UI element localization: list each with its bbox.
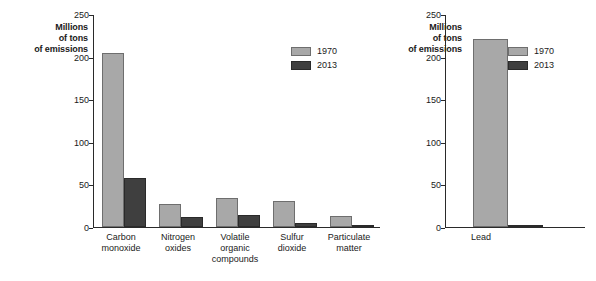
x-axis-line-left	[93, 227, 380, 228]
bar-2013-lead	[508, 225, 543, 227]
bar-1970-volatile-organic-compounds	[216, 198, 238, 227]
bar-1970-particulate-matter	[330, 216, 352, 227]
legend-entry-2013-left[interactable]: 2013	[291, 59, 337, 71]
legend-swatch-2013-icon	[508, 61, 528, 70]
y-axis-title-left: Millions of tons of emissions	[14, 22, 88, 55]
legend-label-2013-right: 2013	[534, 59, 554, 71]
chart-panel-lead: Millions of tons of emissions 250 200 15…	[400, 0, 596, 281]
x-category-label-particulate-matter-line-2: matter	[312, 243, 386, 254]
y-axis-line-right	[445, 15, 446, 228]
bar-2013-sulfur-dioxide	[295, 223, 317, 227]
x-category-label-volatile-organic-compounds-line-3: compounds	[198, 254, 272, 265]
y-tick-label-100-left: 100	[74, 138, 89, 147]
bar-1970-nitrogen-oxides	[159, 204, 181, 227]
y-tick-label-150-left: 150	[74, 96, 89, 105]
x-category-label-particulate-matter-line-1: Particulate	[312, 232, 386, 243]
y-tick-label-100-right: 100	[426, 138, 441, 147]
legend-entry-1970-right[interactable]: 1970	[508, 45, 554, 57]
y-tick-label-150-right: 150	[426, 96, 441, 105]
legend-swatch-2013-icon	[291, 61, 311, 70]
legend-swatch-1970-icon	[508, 47, 528, 56]
legend-entry-1970-left[interactable]: 1970	[291, 45, 337, 57]
x-category-label-lead: Lead	[426, 232, 536, 243]
legend-right: 1970 2013	[508, 45, 554, 73]
legend-label-1970-left: 1970	[317, 45, 337, 57]
y-tick-label-200-right: 200	[426, 53, 441, 62]
bar-2013-volatile-organic-compounds	[238, 215, 260, 227]
y-tick-label-200-left: 200	[74, 53, 89, 62]
x-category-label-particulate-matter: Particulate matter	[312, 232, 386, 254]
bar-2013-nitrogen-oxides	[181, 217, 203, 227]
y-axis-title-line-1: Millions	[14, 22, 88, 33]
legend-swatch-1970-icon	[291, 47, 311, 56]
y-tick-label-50-left: 50	[79, 181, 89, 190]
legend-label-1970-right: 1970	[534, 45, 554, 57]
y-tick-label-50-right: 50	[431, 181, 441, 190]
bar-1970-sulfur-dioxide	[273, 201, 295, 227]
chart-panel-criteria-pollutants: Millions of tons of emissions 250 200 15…	[0, 0, 400, 281]
legend-label-2013-left: 2013	[317, 59, 337, 71]
y-tick-label-250-left: 250	[74, 11, 89, 20]
y-axis-line-left	[93, 15, 94, 228]
y-axis-title-line-2: of tons	[14, 33, 88, 44]
x-axis-line-right	[445, 227, 585, 228]
bar-1970-carbon-monoxide	[102, 53, 124, 227]
chart-page: Millions of tons of emissions 250 200 15…	[0, 0, 596, 281]
bar-2013-carbon-monoxide	[124, 178, 146, 227]
legend-left: 1970 2013	[291, 45, 337, 73]
x-category-label-lead-line-1: Lead	[426, 232, 536, 243]
y-tick-label-250-right: 250	[426, 11, 441, 20]
bar-1970-lead	[473, 39, 508, 227]
legend-entry-2013-right[interactable]: 2013	[508, 59, 554, 71]
bar-2013-particulate-matter	[352, 225, 374, 227]
